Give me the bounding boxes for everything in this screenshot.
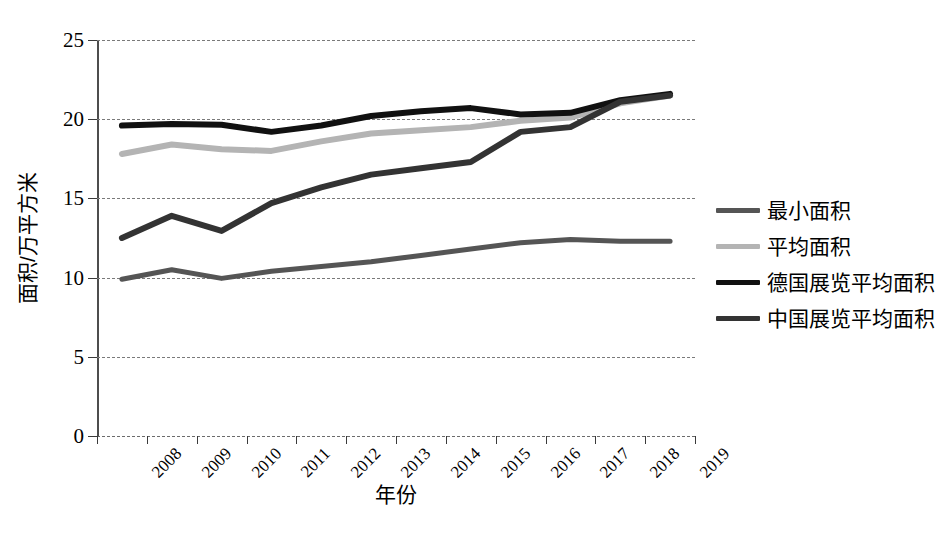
legend-label: 德国展览平均面积 [767,272,935,293]
series-line-3 [122,95,670,238]
legend-swatch-icon [716,280,760,285]
x-tick-label-2018: 2018 [646,444,684,482]
legend-label: 平均面积 [767,236,851,257]
y-tick-15 [88,198,97,199]
legend-label: 中国展览平均面积 [767,308,935,329]
y-tick-label-20: 20 [63,109,84,130]
legend-swatch-icon [716,316,760,321]
x-tick-label-2014: 2014 [447,444,485,482]
y-axis-title: 面积/万平方米 [11,172,41,304]
x-tick-11 [645,436,646,444]
legend-item-1[interactable]: 平均面积 [716,236,935,257]
x-tick-6 [396,436,397,444]
chart-legend: 最小面积平均面积德国展览平均面积中国展览平均面积 [716,200,935,329]
y-tick-label-10: 10 [63,267,84,288]
x-tick-12 [695,436,696,444]
legend-swatch-icon [716,208,760,213]
x-tick-9 [546,436,547,444]
x-tick-3 [247,436,248,444]
x-tick-7 [446,436,447,444]
x-tick-0 [97,436,98,444]
x-tick-label-2011: 2011 [297,444,335,482]
legend-label: 最小面积 [767,200,851,221]
x-tick-label-2013: 2013 [397,444,435,482]
x-tick-label-2016: 2016 [547,444,585,482]
y-tick-10 [88,278,97,279]
legend-item-0[interactable]: 最小面积 [716,200,935,221]
x-tick-label-2019: 2019 [696,444,734,482]
series-layer [97,40,695,436]
x-tick-label-2012: 2012 [347,444,385,482]
y-tick-label-25: 25 [63,30,84,51]
y-tick-label-0: 0 [74,426,85,447]
x-tick-label-2009: 2009 [198,444,236,482]
y-tick-label-15: 15 [63,188,84,209]
series-line-0 [122,240,670,280]
legend-swatch-icon [716,244,760,249]
legend-item-3[interactable]: 中国展览平均面积 [716,308,935,329]
x-tick-8 [496,436,497,444]
x-tick-5 [346,436,347,444]
y-tick-25 [88,40,97,41]
x-tick-label-2010: 2010 [248,444,286,482]
x-tick-1 [147,436,148,444]
y-tick-label-5: 5 [74,346,85,367]
y-tick-20 [88,119,97,120]
line-chart: 面积/万平方米 年份 0510152025 200820092010201120… [0,0,945,541]
x-tick-4 [296,436,297,444]
x-tick-label-2008: 2008 [148,444,186,482]
x-tick-10 [595,436,596,444]
y-tick-5 [88,357,97,358]
x-tick-label-2015: 2015 [497,444,535,482]
y-tick-0 [88,436,97,437]
legend-item-2[interactable]: 德国展览平均面积 [716,272,935,293]
x-tick-label-2017: 2017 [596,444,634,482]
x-tick-2 [197,436,198,444]
plot-area: 0510152025 [97,40,695,436]
